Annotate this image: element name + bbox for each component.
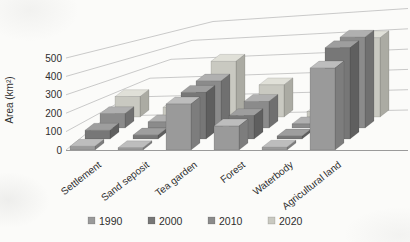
bar-agricultural-land-1990: [310, 61, 344, 150]
bar-sand-seposit-1990: [118, 141, 152, 150]
y-tick-label-400: 400: [45, 71, 62, 82]
legend-item-2010: 2010: [208, 215, 243, 227]
bar-waterbody-2000: [277, 129, 311, 139]
y-axis-title: Area (km²): [4, 76, 15, 123]
x-category-label-sand-seposit: Sand seposit: [99, 159, 152, 203]
legend-item-1990: 1990: [88, 215, 123, 227]
chart-figure: 0100200300400500Area (km²)SettlementSand…: [0, 0, 410, 242]
x-category-label-settlement: Settlement: [59, 159, 104, 197]
y-tick-label-200: 200: [45, 108, 62, 119]
bar-forest-1990: [214, 119, 248, 150]
y-tick-label-100: 100: [45, 126, 62, 137]
legend-item-2000: 2000: [148, 215, 183, 227]
legend-label-2020: 2020: [279, 215, 303, 227]
legend-swatch-icon-1990: [88, 217, 95, 224]
x-category-label-waterbody: Waterbody: [251, 159, 296, 197]
y-tick-label-0: 0: [56, 145, 62, 156]
x-category-label-tea-garden: Tea garden: [153, 159, 199, 198]
bar-tea-garden-1990: [166, 97, 200, 150]
legend-label-1990: 1990: [99, 215, 123, 227]
legend-label-2000: 2000: [159, 215, 183, 227]
bar-waterbody-1990: [262, 140, 296, 150]
bar-sand-seposit-2000: [133, 128, 167, 139]
legend-swatch-icon-2020: [268, 217, 275, 224]
legend-label-2010: 2010: [219, 215, 243, 227]
legend-swatch-icon-2000: [148, 217, 155, 224]
bar-settlement-1990: [70, 139, 104, 150]
bar-settlement-2000: [85, 123, 119, 139]
legend-swatch-icon-2010: [208, 217, 215, 224]
chart-svg: 0100200300400500Area (km²)SettlementSand…: [0, 0, 410, 242]
legend-item-2020: 2020: [268, 215, 303, 227]
y-tick-label-300: 300: [45, 89, 62, 100]
y-tick-label-500: 500: [45, 53, 62, 64]
x-category-label-forest: Forest: [218, 159, 247, 185]
